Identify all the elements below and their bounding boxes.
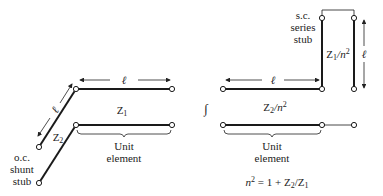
equivalence-symbol: ∫: [204, 103, 208, 115]
oc-label: o.c.: [14, 151, 30, 163]
right-length-label: ℓ: [271, 74, 276, 86]
left-length-label: ℓ: [122, 74, 127, 86]
right-stub-length-label: ℓ: [362, 48, 367, 60]
z2-label: Z2: [53, 131, 64, 147]
left-unit-label: Unit: [114, 140, 134, 152]
z1-label: Z1: [117, 104, 128, 120]
z1-over-n2-label: Z1/n2: [326, 46, 349, 64]
right-unit-element-brace: [224, 130, 321, 137]
z2-over-n2-label: Z2/n2: [263, 99, 286, 117]
right-element-label: element: [255, 152, 290, 164]
left-unit-element-brace: [77, 130, 171, 137]
stub-label-right: stub: [294, 33, 312, 45]
left-element-label: element: [107, 152, 142, 164]
circuit-drawing: [0, 0, 383, 196]
right-unit-label: Unit: [262, 140, 282, 152]
series-label: series: [290, 21, 315, 33]
n-squared-formula: n2 = 1 + Z2/Z1: [246, 174, 309, 192]
stub-label: stub: [13, 175, 31, 187]
right-terminals: [220, 15, 356, 127]
kurodas-identity-diagram: ℓ ℓ Z1 Z2 Unit element o.c. shunt stub ∫…: [0, 0, 383, 196]
right-transmission-line: [223, 10, 354, 125]
sc-label: s.c.: [296, 9, 311, 21]
shunt-label: shunt: [10, 163, 34, 175]
